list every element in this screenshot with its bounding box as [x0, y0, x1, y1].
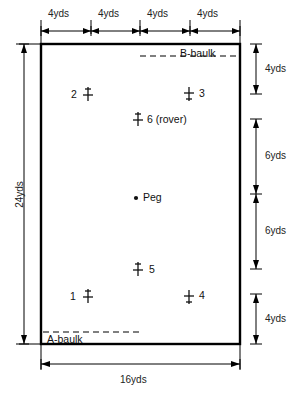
right-dimension-label-3: 6yds [265, 225, 286, 236]
bottom-dimension [41, 344, 240, 370]
hoop-3-label: 3 [199, 87, 205, 99]
a-baulk-label: A-baulk [47, 333, 83, 345]
b-baulk-label: B-baulk [180, 47, 216, 59]
court-height-label: 24yds [14, 170, 25, 220]
top-dimension-chain [41, 20, 240, 44]
peg-label: Peg [143, 191, 162, 203]
peg-marker [134, 196, 138, 200]
hoop-1-label: 1 [70, 290, 76, 302]
top-dimension-label-2: 4yds [98, 8, 119, 19]
hoop-6-label: 6 (rover) [147, 113, 187, 125]
right-dimension-label-2: 6yds [265, 150, 286, 161]
top-dimension-label-3: 4yds [147, 8, 168, 19]
top-dimension-label-1: 4yds [48, 8, 69, 19]
court-width-label: 16yds [120, 374, 147, 385]
right-dimension-chain [250, 44, 262, 344]
hoop-4-label: 4 [199, 289, 205, 301]
hoop-2-label: 2 [71, 88, 77, 100]
right-dimension-label-1: 4yds [265, 63, 286, 74]
right-dimension-label-4: 4yds [265, 313, 286, 324]
hoop-5-label: 5 [149, 263, 155, 275]
top-dimension-label-4: 4yds [197, 8, 218, 19]
